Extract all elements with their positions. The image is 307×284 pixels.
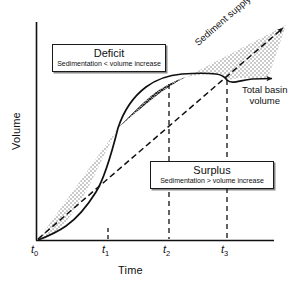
basin-fill-diagram: Volume Time t0 t1 t2 t3 Deficit Sediment… xyxy=(0,0,307,284)
x-tick-t0: t0 xyxy=(31,243,38,258)
basin-volume-curve xyxy=(38,73,272,240)
surplus-callout: Surplus Sedimentation > volume increase xyxy=(150,161,274,189)
surplus-title: Surplus xyxy=(155,164,269,176)
total-basin-volume-line1: Total basin xyxy=(242,84,287,95)
x-tick-t2: t2 xyxy=(163,243,170,258)
total-basin-volume-line2: volume xyxy=(249,95,280,106)
deficit-subtitle: Sedimentation < volume increase xyxy=(57,59,161,68)
x-axis-label: Time xyxy=(118,264,143,276)
x-tick-t3: t3 xyxy=(221,243,228,258)
deficit-callout: Deficit Sedimentation < volume increase xyxy=(52,44,166,72)
diagram-canvas xyxy=(0,0,307,284)
deficit-title: Deficit xyxy=(57,47,161,59)
surplus-subtitle: Sedimentation > volume increase xyxy=(155,176,269,185)
x-tick-t1: t1 xyxy=(102,243,109,258)
y-axis-label: Volume xyxy=(10,101,22,161)
total-basin-volume-label: Total basin volume xyxy=(242,84,287,106)
deficit-region xyxy=(38,128,118,240)
